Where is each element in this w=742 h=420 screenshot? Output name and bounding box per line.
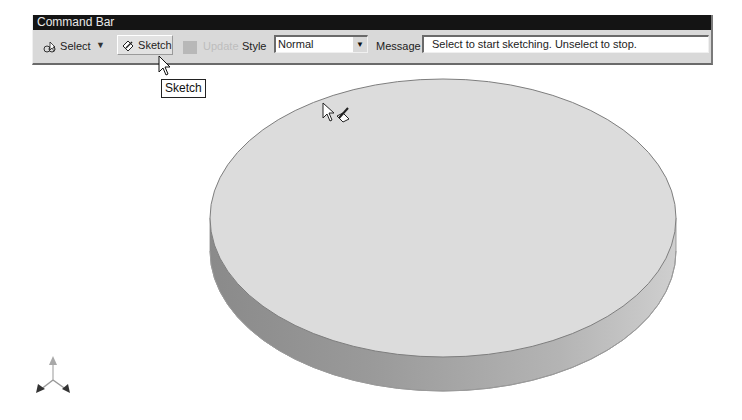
sketch-pencil-icon	[121, 40, 135, 52]
select-button[interactable]: Select	[43, 37, 91, 55]
select-label: Select	[60, 40, 91, 52]
update-square-icon	[183, 41, 197, 54]
chevron-down-icon: ▼	[96, 40, 105, 50]
update-button[interactable]: Update	[183, 37, 239, 55]
sketch-tooltip: Sketch	[161, 79, 206, 98]
sketch-cursor-icon	[321, 102, 353, 126]
style-select[interactable]: Normal ▼	[274, 35, 368, 53]
disc-part[interactable]	[210, 79, 676, 391]
sketch-button[interactable]: Sketch	[117, 35, 173, 55]
message-label: Message	[376, 37, 421, 55]
style-value: Normal	[278, 38, 313, 50]
style-label: Style	[242, 37, 266, 55]
axis-triad-icon	[36, 356, 70, 393]
command-bar: Command Bar Select ▼ Sketch Update Style	[32, 15, 713, 65]
message-text: Select to start sketching. Unselect to s…	[432, 38, 637, 50]
disc-top-face[interactable]	[210, 79, 676, 357]
command-bar-title[interactable]: Command Bar	[33, 15, 711, 30]
message-field: Select to start sketching. Unselect to s…	[422, 35, 709, 53]
command-bar-toolbar: Select ▼ Sketch Update Style Normal ▼ Me…	[33, 30, 711, 63]
chevron-down-icon[interactable]: ▼	[352, 37, 367, 52]
update-label: Update	[203, 40, 238, 52]
select-arrow-icon	[43, 41, 57, 53]
mouse-pointer-icon	[158, 55, 174, 77]
select-dropdown-button[interactable]: ▼	[96, 36, 105, 54]
sketch-label: Sketch	[138, 39, 172, 51]
